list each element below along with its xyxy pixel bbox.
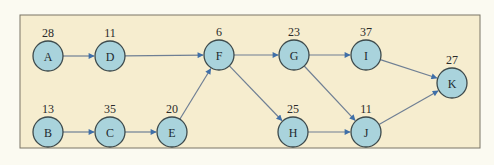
duration-label: 27 — [446, 53, 458, 67]
duration-label: 23 — [288, 25, 300, 39]
node-label: K — [448, 77, 457, 91]
activity-network-diagram: A28D11F6G23I37K27B13C35E20H25J11 — [0, 0, 494, 165]
duration-label: 11 — [360, 102, 372, 116]
diagram-frame — [20, 15, 480, 148]
duration-label: 6 — [216, 25, 222, 39]
duration-label: 37 — [360, 25, 372, 39]
node-label: C — [106, 126, 114, 140]
node-label: A — [44, 50, 53, 64]
node-label: H — [289, 126, 298, 140]
duration-label: 11 — [104, 26, 116, 40]
duration-label: 13 — [42, 102, 54, 116]
duration-label: 25 — [287, 102, 299, 116]
edge-d-to-f — [125, 55, 203, 56]
node-label: J — [364, 126, 369, 140]
duration-label: 28 — [42, 26, 54, 40]
node-label: E — [168, 126, 175, 140]
node-label: B — [44, 126, 52, 140]
node-label: I — [364, 49, 368, 63]
duration-label: 20 — [166, 102, 178, 116]
node-label: D — [106, 50, 115, 64]
node-label: G — [290, 49, 299, 63]
node-label: F — [216, 49, 223, 63]
duration-label: 35 — [104, 102, 116, 116]
